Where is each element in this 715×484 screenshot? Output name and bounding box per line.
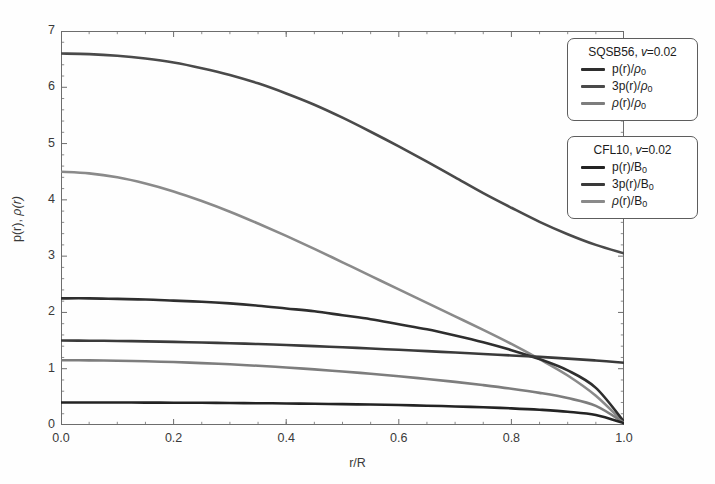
- y-tick-label: 6: [33, 80, 55, 93]
- legend-item-3p-rho0[interactable]: 3p(r)/ρ0: [581, 80, 688, 94]
- y-tick-label: 0: [33, 418, 55, 431]
- legend-label-p-b0: p(r)/B0: [612, 161, 647, 175]
- x-tick-label: 0.0: [41, 432, 81, 445]
- legend-cfl10-title: CFL10, v=0.02: [577, 143, 688, 157]
- major-tick-marks: [61, 31, 624, 425]
- y-tick-label: 5: [33, 137, 55, 150]
- legend-cfl10-param-value: =0.02: [642, 143, 672, 157]
- legend-label-rho-b0: ρ(r)/B0: [612, 195, 647, 209]
- legend-sqsb56-param-value: =0.02: [647, 45, 677, 59]
- y-tick-label: 7: [33, 24, 55, 37]
- legend-swatch-3p-rho0: [581, 85, 605, 88]
- legend-label-3p-b0: 3p(r)/B0: [612, 178, 654, 192]
- x-tick-label: 0.2: [154, 432, 194, 445]
- legend-label-rho-rho0: ρ(r)/ρ0: [612, 97, 646, 111]
- legend-sqsb56[interactable]: SQSB56, v=0.02 p(r)/ρ0 3p(r)/ρ0 ρ(r)/ρ0: [567, 38, 698, 121]
- x-axis-title: r/R: [0, 456, 715, 470]
- legend-swatch-3p-b0: [581, 183, 605, 186]
- legend-item-rho-b0[interactable]: ρ(r)/B0: [581, 195, 688, 209]
- y-tick-label: 1: [33, 362, 55, 375]
- x-tick-label: 0.6: [379, 432, 419, 445]
- legend-item-rho-rho0[interactable]: ρ(r)/ρ0: [581, 97, 688, 111]
- y-axis-title-sep: ,: [10, 216, 24, 223]
- legend-sqsb56-model: SQSB56: [588, 45, 634, 59]
- x-tick-label: 0.8: [491, 432, 531, 445]
- legend-swatch-rho-b0: [581, 200, 605, 203]
- curve-sqsb56: [61, 54, 624, 254]
- x-tick-label: 1.0: [604, 432, 644, 445]
- y-tick-label: 4: [33, 193, 55, 206]
- y-axis-title-wrapper: p(r), ρ(r): [0, 0, 1, 1]
- legend-swatch-rho-rho0: [581, 102, 605, 105]
- curve-cfl10: [61, 402, 624, 423]
- data-curves: [61, 54, 624, 424]
- legend-sqsb56-title: SQSB56, v=0.02: [577, 45, 688, 59]
- chart-canvas: 01234567 p(r), ρ(r) 0.00.20.40.60.81.0 r…: [0, 0, 715, 484]
- legend-item-p-b0[interactable]: p(r)/B0: [581, 161, 688, 175]
- legend-item-3p-b0[interactable]: 3p(r)/B0: [581, 178, 688, 192]
- y-axis-title-rho: ρ(r): [10, 196, 24, 216]
- x-tick-label: 0.4: [266, 432, 306, 445]
- y-axis-title: p(r), ρ(r): [10, 164, 24, 274]
- minor-tick-marks: [61, 31, 624, 425]
- y-axis-tick-labels: 01234567: [31, 0, 55, 484]
- legend-swatch-p-b0: [581, 166, 605, 169]
- y-axis-title-p: p(r): [10, 223, 24, 242]
- legend-label-3p-rho0: 3p(r)/ρ0: [612, 80, 653, 94]
- curves-layer: [61, 31, 624, 425]
- legend-item-p-rho0[interactable]: p(r)/ρ0: [581, 63, 688, 77]
- x-axis-tick-labels: 0.00.20.40.60.81.0: [0, 432, 715, 452]
- curve-cfl10: [61, 172, 624, 423]
- y-tick-label: 2: [33, 305, 55, 318]
- y-tick-label: 3: [33, 249, 55, 262]
- curve-sqsb56: [61, 360, 624, 422]
- legend-label-p-rho0: p(r)/ρ0: [612, 63, 646, 77]
- legend-swatch-p-rho0: [581, 68, 605, 71]
- legend-cfl10-model: CFL10: [594, 143, 630, 157]
- legend-cfl10[interactable]: CFL10, v=0.02 p(r)/B0 3p(r)/B0 ρ(r)/B0: [567, 136, 698, 219]
